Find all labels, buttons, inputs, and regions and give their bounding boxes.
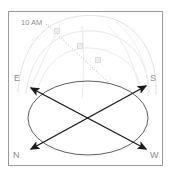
sun-marker-3 bbox=[96, 58, 101, 63]
sun-marker-2 bbox=[78, 44, 83, 49]
hour-annotation-label: 10 AM bbox=[21, 19, 42, 27]
sun-path-arc-group bbox=[18, 15, 156, 98]
hour-line-center-path bbox=[82, 26, 84, 98]
hour-line-right-path bbox=[108, 26, 140, 96]
outer-arc-path bbox=[18, 15, 156, 95]
sun-marker-group bbox=[55, 29, 101, 63]
shadow-line-group bbox=[32, 24, 108, 82]
cardinal-label-west: W bbox=[150, 151, 159, 160]
middle-arc-path bbox=[26, 31, 148, 96]
cardinal-label-north: N bbox=[13, 151, 20, 160]
cardinal-label-east: E bbox=[14, 74, 20, 83]
sun-marker-1 bbox=[55, 29, 60, 34]
diagram-canvas bbox=[0, 0, 173, 190]
inner-arc-path bbox=[36, 48, 140, 97]
direction-arrow-group bbox=[31, 86, 146, 149]
sun-path-diagram: E S N W 10 AM bbox=[0, 0, 173, 190]
cardinal-label-south: S bbox=[150, 74, 156, 83]
